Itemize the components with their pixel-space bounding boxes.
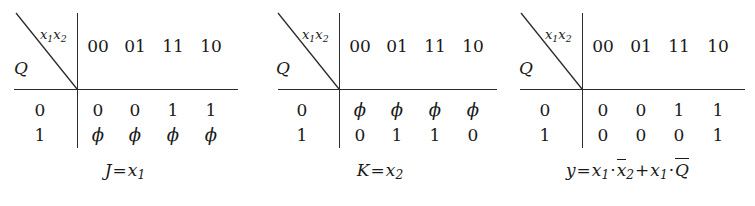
table-cell: ϕ — [415, 101, 455, 119]
truth-table-y: x1x2 Q 00 01 11 10 0 1 0 0 1 1 0 0 0 1 y… — [500, 0, 750, 206]
table-cell: ϕ — [115, 126, 155, 144]
column-header: 00 — [340, 38, 380, 55]
table-cell: ϕ — [191, 126, 231, 144]
caption-dot: · — [609, 160, 616, 180]
row-header: 0 — [20, 102, 60, 119]
table-cell: 0 — [453, 127, 493, 144]
truth-table-K: x1x2 Q 00 01 11 10 0 1 ϕ ϕ ϕ ϕ 0 1 1 0 K… — [255, 0, 505, 206]
table-grid-y: x1x2 Q 00 01 11 10 0 1 0 0 1 1 0 0 0 1 — [500, 0, 750, 155]
table-cell: 1 — [698, 127, 738, 144]
corner-label-inputs: x1x2 — [302, 28, 329, 43]
column-header: 01 — [115, 38, 155, 55]
table-cell: 1 — [659, 102, 699, 119]
table-cell: 0 — [659, 127, 699, 144]
corner-label-state: Q — [14, 60, 28, 77]
corner-label-inputs: x1x2 — [40, 28, 67, 43]
corner-label-state: Q — [519, 60, 533, 77]
column-header: 00 — [78, 38, 118, 55]
caption-equals: = — [112, 160, 128, 180]
row-header: 1 — [525, 127, 565, 144]
column-header: 00 — [583, 38, 623, 55]
table-cell: 0 — [621, 127, 661, 144]
caption-equals: = — [370, 160, 386, 180]
table-cell: ϕ — [377, 101, 417, 119]
horizontal-rule — [14, 89, 238, 90]
table-cell: ϕ — [153, 126, 193, 144]
truth-table-figure: x1x2 Q 00 01 11 10 0 1 0 0 1 1 ϕ ϕ ϕ ϕ J… — [0, 0, 755, 206]
table-caption-y: y=x1·x2+x1·Q — [500, 160, 755, 184]
table-cell: 1 — [415, 127, 455, 144]
column-header: 01 — [377, 38, 417, 55]
table-grid-K: x1x2 Q 00 01 11 10 0 1 ϕ ϕ ϕ ϕ 0 1 1 0 — [255, 0, 505, 155]
horizontal-rule — [278, 89, 497, 90]
table-cell: 1 — [698, 102, 738, 119]
column-header: 10 — [453, 38, 493, 55]
column-header: 11 — [153, 38, 193, 55]
caption-dot: · — [668, 160, 675, 180]
table-cell: 1 — [191, 102, 231, 119]
table-grid-J: x1x2 Q 00 01 11 10 0 1 0 0 1 1 ϕ ϕ ϕ ϕ — [0, 0, 250, 155]
column-header: 01 — [621, 38, 661, 55]
row-header: 1 — [20, 127, 60, 144]
row-header: 0 — [525, 102, 565, 119]
caption-lhs: y — [566, 160, 576, 180]
horizontal-rule — [520, 89, 745, 90]
caption-rhs: x1·x2+x1·Q — [592, 160, 689, 180]
table-caption-J: J=x1 — [0, 160, 250, 184]
caption-plus: + — [634, 160, 650, 180]
table-caption-K: K=x2 — [255, 160, 505, 184]
column-header: 10 — [698, 38, 738, 55]
table-cell: 0 — [583, 102, 623, 119]
table-cell: ϕ — [340, 101, 380, 119]
caption-lhs: J — [105, 160, 112, 180]
row-header: 1 — [282, 127, 322, 144]
table-cell: 0 — [115, 102, 155, 119]
table-cell: 0 — [340, 127, 380, 144]
caption-lhs: K — [357, 160, 370, 180]
truth-table-J: x1x2 Q 00 01 11 10 0 1 0 0 1 1 ϕ ϕ ϕ ϕ J… — [0, 0, 250, 206]
row-header: 0 — [282, 102, 322, 119]
caption-rhs: x2 — [386, 160, 403, 180]
column-header: 10 — [191, 38, 231, 55]
table-cell: 1 — [153, 102, 193, 119]
table-cell: 0 — [621, 102, 661, 119]
corner-label-state: Q — [276, 60, 290, 77]
column-header: 11 — [415, 38, 455, 55]
table-cell: ϕ — [453, 101, 493, 119]
table-cell: 0 — [78, 102, 118, 119]
table-cell: ϕ — [78, 126, 118, 144]
table-cell: 0 — [583, 127, 623, 144]
column-header: 11 — [659, 38, 699, 55]
caption-equals: = — [576, 160, 592, 180]
table-cell: 1 — [377, 127, 417, 144]
caption-rhs: x1 — [128, 160, 145, 180]
corner-label-inputs: x1x2 — [545, 28, 572, 43]
